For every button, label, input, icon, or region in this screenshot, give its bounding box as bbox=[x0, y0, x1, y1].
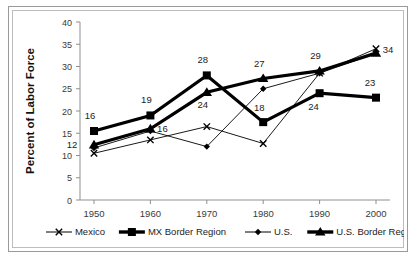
data-label: 29 bbox=[310, 50, 321, 61]
figure-caption bbox=[28, 255, 408, 267]
data-label: 18 bbox=[254, 102, 265, 113]
legend-label: MX Border Region bbox=[148, 226, 226, 237]
series-line bbox=[94, 49, 376, 154]
y-axis-title: Percent of Labor Force bbox=[24, 48, 36, 174]
y-tick-label: 20 bbox=[62, 107, 72, 117]
x-tick-label: 1960 bbox=[140, 208, 161, 219]
y-tick-label: 25 bbox=[62, 84, 72, 94]
square-marker bbox=[128, 228, 136, 236]
series-line bbox=[94, 75, 376, 131]
square-marker bbox=[203, 71, 211, 79]
axis-layer: 0510152025303540Percent of Labor Force19… bbox=[24, 18, 390, 220]
legend-item: U.S. bbox=[245, 226, 292, 237]
x-tick-label: 1970 bbox=[196, 208, 217, 219]
data-label: 16 bbox=[157, 123, 168, 134]
data-label: 28 bbox=[198, 54, 209, 65]
x-tick-label: 1950 bbox=[83, 208, 104, 219]
legend-label: U.S. Border Region bbox=[336, 226, 404, 237]
data-label: 19 bbox=[141, 94, 152, 105]
y-tick-label: 15 bbox=[62, 129, 72, 139]
x-tick-label: 2000 bbox=[365, 208, 386, 219]
legend-label: U.S. bbox=[274, 226, 292, 237]
series-mx-border-region bbox=[90, 71, 380, 135]
y-tick-label: 40 bbox=[62, 18, 72, 28]
x-tick-label: 1990 bbox=[309, 208, 330, 219]
legend-item: MX Border Region bbox=[119, 226, 226, 237]
data-label: 24 bbox=[308, 101, 319, 112]
data-label: 24 bbox=[198, 99, 209, 110]
square-marker bbox=[90, 127, 98, 135]
square-marker bbox=[372, 94, 380, 102]
y-tick-label: 5 bbox=[67, 173, 72, 183]
data-label: 12 bbox=[67, 139, 78, 150]
series-mexico bbox=[91, 46, 379, 157]
square-marker bbox=[259, 118, 267, 126]
data-label: 27 bbox=[254, 58, 265, 69]
square-marker bbox=[146, 111, 154, 119]
y-tick-label: 35 bbox=[62, 40, 72, 50]
line-chart: 0510152025303540Percent of Labor Force19… bbox=[12, 10, 404, 248]
data-label: 16 bbox=[85, 110, 96, 121]
triangle-marker bbox=[371, 48, 381, 57]
legend-item: U.S. Border Region bbox=[307, 226, 404, 237]
chart-legend: MexicoMX Border RegionU.S.U.S. Border Re… bbox=[46, 226, 404, 237]
diamond-marker bbox=[255, 229, 261, 235]
data-label: 34 bbox=[383, 44, 394, 55]
x-tick-label: 1980 bbox=[253, 208, 274, 219]
y-tick-label: 10 bbox=[62, 151, 72, 161]
series-layer bbox=[89, 46, 381, 157]
figure-container: 0510152025303540Percent of Labor Force19… bbox=[0, 0, 417, 267]
y-tick-label: 0 bbox=[67, 196, 72, 206]
legend-item: Mexico bbox=[46, 226, 105, 237]
legend-label: Mexico bbox=[75, 226, 105, 237]
square-marker bbox=[316, 89, 324, 97]
y-tick-label: 30 bbox=[62, 62, 72, 72]
data-label: 23 bbox=[365, 77, 376, 88]
